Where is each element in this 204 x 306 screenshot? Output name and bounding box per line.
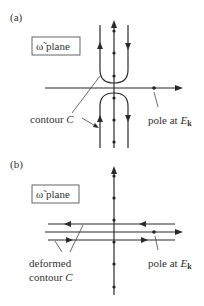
- panel-a-pole-label: pole at Ek: [148, 114, 192, 128]
- panel-a-axis-dot: [112, 96, 115, 99]
- panel-b-real-axis-arrow-icon: [175, 229, 183, 235]
- panel-a-label: (a): [10, 11, 23, 24]
- panel-a-axis-dot: [112, 74, 115, 77]
- panel-b-axis-dot: [112, 218, 115, 221]
- panel-a-pole-dot: [152, 86, 156, 90]
- panel-b-contour-arrow-left-icon: [139, 221, 146, 227]
- panel-a-contour-pointer-arrow-icon: [93, 123, 99, 128]
- panel-b-pole-dot: [152, 230, 156, 234]
- panel-b-contour-label-line2: contour C: [29, 271, 73, 283]
- panel-b-axis-dot: [112, 174, 115, 177]
- panel-b-contour-arrow-right-icon: [66, 237, 73, 243]
- panel-b-contour-label-line1: deformed: [29, 257, 72, 269]
- panel-b-contour-pointer: [55, 241, 62, 252]
- panel-b-pole-pointer: [155, 236, 158, 250]
- panel-b-pole-label: pole at Ek: [148, 257, 192, 271]
- panel-a-contour-arrow-up-icon: [97, 115, 103, 122]
- panel-b-contour-arrow-right-icon: [141, 237, 148, 243]
- contour-diagram: (a) ω̃ plane contour C p: [0, 0, 204, 306]
- panel-b-contour-arrow-left-icon: [64, 221, 71, 227]
- panel-a: (a) ω̃ plane contour C p: [10, 11, 192, 148]
- panel-b-axis-dot: [112, 196, 115, 199]
- panel-a-axis-dot: [112, 118, 115, 121]
- panel-a-pole-pointer: [154, 92, 158, 107]
- panel-b-plane-label: ω̃ plane: [36, 188, 70, 200]
- panel-b-axis-dot: [112, 240, 115, 243]
- panel-b-axis-dot: [112, 262, 115, 265]
- panel-a-contour-arrow-up-icon: [97, 42, 103, 49]
- panel-a-real-axis-arrow-icon: [175, 85, 183, 91]
- panel-a-contour-arrow-down-icon: [125, 115, 131, 122]
- panel-b: (b) ω̃ plane deformed contour C pol: [10, 158, 192, 295]
- panel-b-contour-pointer: [70, 225, 83, 252]
- panel-a-axis-dot: [112, 51, 115, 54]
- panel-a-contour-label: contour C: [30, 113, 74, 125]
- panel-a-imag-axis-arrow-icon: [111, 20, 117, 28]
- panel-a-axis-dot: [112, 140, 115, 143]
- panel-b-imag-axis-arrow-icon: [111, 166, 117, 174]
- panel-a-axis-dot: [112, 29, 115, 32]
- panel-b-label: (b): [10, 158, 23, 171]
- panel-a-contour-arrow-down-icon: [125, 43, 131, 50]
- panel-a-plane-label: ω̃ plane: [36, 40, 70, 52]
- panel-b-axis-dot: [112, 285, 115, 288]
- panel-a-contour-pointer: [72, 76, 100, 113]
